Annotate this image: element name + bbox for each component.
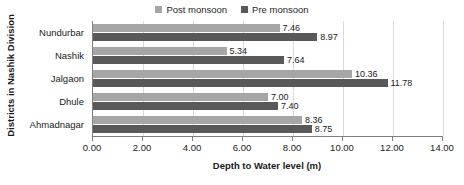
bar-value-pre-nundurbar: 8.97 xyxy=(320,33,338,41)
gridline xyxy=(443,21,444,136)
bar-value-post-nashik: 5.34 xyxy=(230,47,248,55)
bar-group-post-dhule: 7.00 xyxy=(93,93,443,101)
bar-post-dhule[interactable] xyxy=(93,93,268,101)
x-axis-tick-label: 14.00 xyxy=(430,142,454,153)
bar-rows: 7.46 8.97 5.34 7.64 xyxy=(93,21,443,136)
bar-pre-nundurbar[interactable] xyxy=(93,33,317,41)
legend-swatch-post-monsoon xyxy=(155,6,162,13)
bar-value-post-jalgaon: 10.36 xyxy=(355,70,378,78)
legend-item-post-monsoon[interactable]: Post monsoon xyxy=(155,4,227,15)
legend-swatch-pre-monsoon xyxy=(241,6,248,13)
bar-group-post-nundurbar: 7.46 xyxy=(93,24,443,32)
bar-group-pre-jalgaon: 11.78 xyxy=(93,79,443,87)
x-axis-tick-label: 0.00 xyxy=(83,142,102,153)
y-axis-label-nundurbar: Nundurbar xyxy=(18,21,88,44)
x-axis-title: Depth to Water level (m) xyxy=(92,160,442,171)
chart-legend: Post monsoon Pre monsoon xyxy=(0,4,464,15)
bar-pre-jalgaon[interactable] xyxy=(93,79,388,87)
y-axis-label-jalgaon: Jalgaon xyxy=(18,67,88,90)
bar-group-post-jalgaon: 10.36 xyxy=(93,70,443,78)
plot-area: 7.46 8.97 5.34 7.64 xyxy=(92,21,443,137)
y-axis-category-labels: Nundurbar Nashik Jalgaon Dhule Ahmadnaga… xyxy=(18,21,88,136)
bar-group-pre-dhule: 7.40 xyxy=(93,102,443,110)
bar-value-post-ahmadnagar: 8.36 xyxy=(305,116,323,124)
x-axis-tick-label: 12.00 xyxy=(380,142,404,153)
legend-label-post-monsoon: Post monsoon xyxy=(166,4,227,15)
x-axis-tick-labels: 0.002.004.006.008.0010.0012.0014.00 xyxy=(92,142,442,156)
y-axis-label-nashik: Nashik xyxy=(18,44,88,67)
legend-label-pre-monsoon: Pre monsoon xyxy=(252,4,309,15)
bar-group-post-nashik: 5.34 xyxy=(93,47,443,55)
bar-pre-ahmadnagar[interactable] xyxy=(93,125,312,133)
bar-group-pre-ahmadnagar: 8.75 xyxy=(93,125,443,133)
table-row: 5.34 7.64 xyxy=(93,44,443,67)
bar-pre-dhule[interactable] xyxy=(93,102,278,110)
x-axis-tick-mark xyxy=(442,137,443,141)
y-axis-title: Districts in Nashik Division xyxy=(2,0,18,150)
x-axis-tick-mark xyxy=(292,137,293,141)
bar-post-nashik[interactable] xyxy=(93,47,227,55)
y-axis-label-dhule: Dhule xyxy=(18,90,88,113)
table-row: 7.46 8.97 xyxy=(93,21,443,44)
x-axis-tick-label: 6.00 xyxy=(233,142,252,153)
x-axis-tick-label: 4.00 xyxy=(183,142,202,153)
bar-value-pre-jalgaon: 11.78 xyxy=(391,79,413,87)
table-row: 8.36 8.75 xyxy=(93,113,443,136)
y-axis-title-text: Districts in Nashik Division xyxy=(5,14,16,136)
table-row: 7.00 7.40 xyxy=(93,90,443,113)
x-axis-tick-mark xyxy=(92,137,93,141)
x-axis-tick-mark xyxy=(192,137,193,141)
bar-value-pre-dhule: 7.40 xyxy=(281,102,299,110)
bar-pre-nashik[interactable] xyxy=(93,56,284,64)
bar-group-pre-nundurbar: 8.97 xyxy=(93,33,443,41)
x-axis-tick-mark xyxy=(142,137,143,141)
table-row: 10.36 11.78 xyxy=(93,67,443,90)
x-axis-tick-label: 8.00 xyxy=(283,142,302,153)
bar-value-post-nundurbar: 7.46 xyxy=(283,24,301,32)
bar-value-pre-nashik: 7.64 xyxy=(287,56,305,64)
bar-post-ahmadnagar[interactable] xyxy=(93,116,302,124)
x-axis-tick-mark xyxy=(392,137,393,141)
bar-group-post-ahmadnagar: 8.36 xyxy=(93,116,443,124)
x-axis-tick-mark xyxy=(242,137,243,141)
x-axis-tick-label: 2.00 xyxy=(133,142,152,153)
bar-post-jalgaon[interactable] xyxy=(93,70,352,78)
x-axis-tick-mark xyxy=(342,137,343,141)
x-axis-tick-label: 10.00 xyxy=(330,142,354,153)
legend-item-pre-monsoon[interactable]: Pre monsoon xyxy=(241,4,309,15)
bar-chart: Post monsoon Pre monsoon Districts in Na… xyxy=(0,0,464,185)
bar-group-pre-nashik: 7.64 xyxy=(93,56,443,64)
bar-post-nundurbar[interactable] xyxy=(93,24,280,32)
bar-value-pre-ahmadnagar: 8.75 xyxy=(315,125,333,133)
bar-value-post-dhule: 7.00 xyxy=(271,93,289,101)
y-axis-label-ahmadnagar: Ahmadnagar xyxy=(18,113,88,136)
